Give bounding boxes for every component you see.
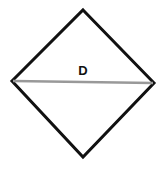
diagonal-label: D [78, 63, 87, 78]
diagonal-line [13, 81, 153, 83]
diamond-diagram: D [0, 0, 163, 171]
